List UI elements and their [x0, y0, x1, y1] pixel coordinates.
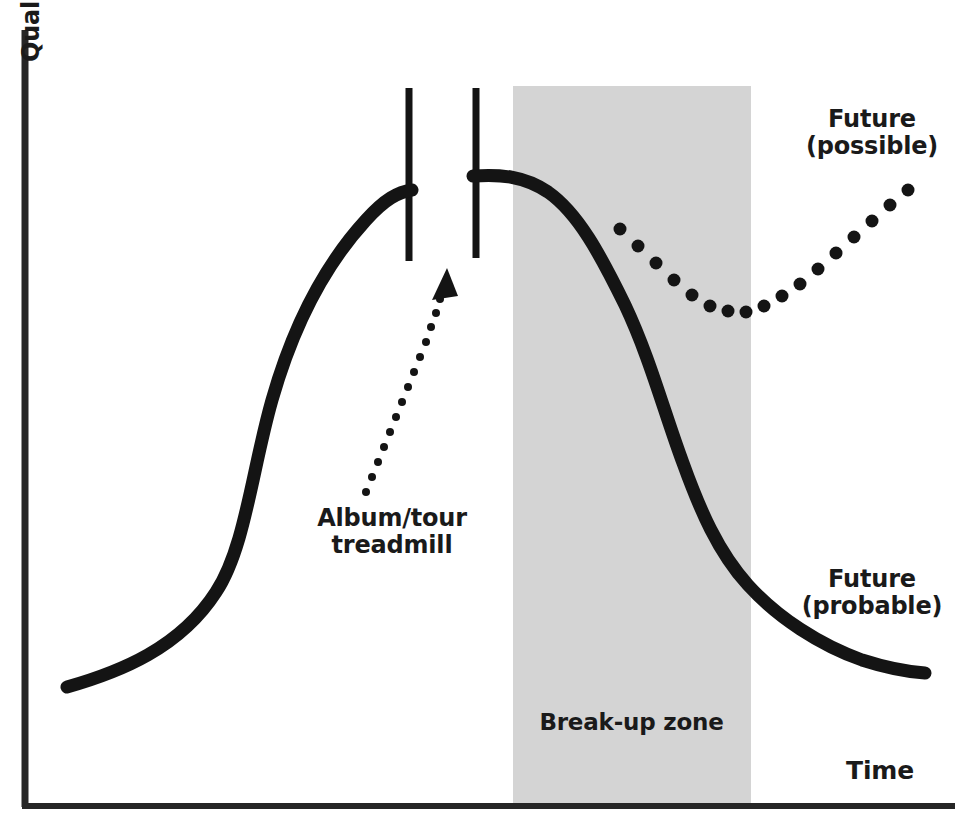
- future-probable-label: Future (probable): [792, 566, 952, 620]
- y-axis-label: Quality: [18, 0, 45, 62]
- album-tour-treadmill-label: Album/tour treadmill: [282, 505, 502, 559]
- future-possible-label: Future (possible): [792, 106, 952, 160]
- arrowhead-icon: [432, 268, 458, 300]
- treadmill-break-markers: [409, 88, 476, 261]
- album-tour-treadmill-arrow: [362, 268, 458, 496]
- x-axis-label: Time: [820, 757, 940, 785]
- breakup-zone-label: Break-up zone: [512, 710, 751, 736]
- career-quality-curve-rising-segment: [67, 190, 412, 687]
- chart-canvas: Quality Time Future (possible) Future (p…: [0, 0, 961, 830]
